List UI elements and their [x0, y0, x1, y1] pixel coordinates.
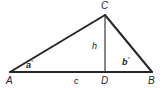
geometry-diagram: A B C D c h a° b°: [0, 0, 164, 88]
vertex-label-c: C: [101, 1, 108, 11]
angle-label-b: b°: [122, 56, 130, 67]
vertex-label-b: B: [148, 76, 155, 86]
triangle-figure: [0, 0, 164, 88]
vertex-label-d: D: [101, 76, 108, 86]
segment-label-h: h: [92, 42, 97, 51]
degree-icon-a: °: [31, 59, 33, 65]
side-ac-line: [10, 15, 105, 72]
angle-label-a: a°: [26, 59, 33, 70]
segment-label-c: c: [74, 77, 79, 86]
degree-icon-b: °: [128, 56, 130, 62]
vertex-label-a: A: [6, 76, 13, 86]
